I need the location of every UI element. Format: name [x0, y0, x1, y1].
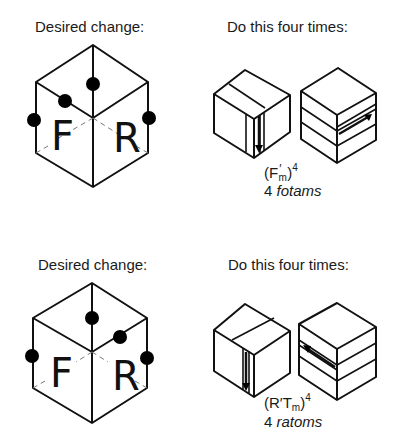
marker-dot — [86, 77, 100, 91]
formula-part: (F — [264, 164, 278, 181]
desired-cube-1: F R — [27, 45, 156, 187]
formula-part: T — [283, 394, 292, 411]
diagram-canvas: F R — [0, 0, 401, 437]
caption-word: fotams — [277, 182, 322, 199]
formula-1: (FT′m)4 — [264, 162, 298, 183]
move-cube-2a — [214, 304, 290, 397]
formula-prime: ′ — [279, 162, 281, 176]
move-cube-1a — [214, 70, 290, 158]
marker-dot — [113, 330, 127, 344]
formula-exponent: 4 — [292, 162, 298, 173]
marker-dot — [58, 94, 72, 108]
desired-cube-2: F R — [25, 283, 154, 423]
move-cube-2b — [299, 303, 376, 400]
caption-word: ratoms — [277, 413, 323, 430]
formula-2: (R′Tm)4 — [264, 392, 311, 413]
caption-1: 4 fotams — [264, 182, 322, 199]
formula-part: (R′ — [264, 394, 283, 411]
formula-subscript: m — [292, 402, 300, 413]
face-letter-f-2: F — [50, 350, 73, 396]
marker-dot — [25, 349, 39, 363]
marker-dot — [140, 351, 154, 365]
caption-count: 4 — [264, 413, 272, 430]
marker-dot — [142, 111, 156, 125]
caption-2: 4 ratoms — [264, 413, 322, 430]
face-letter-f-1: F — [51, 113, 74, 159]
caption-count: 4 — [264, 182, 272, 199]
marker-dot — [27, 113, 41, 127]
face-letter-r-1: R — [113, 115, 141, 161]
formula-exponent: 4 — [305, 392, 311, 403]
marker-dot — [85, 311, 99, 325]
move-cube-1b — [301, 68, 376, 163]
face-letter-r-2: R — [112, 353, 140, 399]
formula-prime-sub: ′m — [278, 164, 287, 183]
